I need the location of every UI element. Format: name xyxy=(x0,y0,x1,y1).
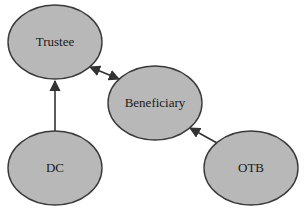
node-label-otb: OTB xyxy=(238,160,264,175)
edge-otb-beneficiary xyxy=(190,128,217,143)
node-label-beneficiary: Beneficiary xyxy=(125,95,186,110)
node-label-dc: DC xyxy=(46,160,64,175)
edge-trustee-beneficiary xyxy=(90,67,119,79)
node-beneficiary: Beneficiary xyxy=(108,66,202,140)
node-trustee: Trustee xyxy=(8,5,102,79)
node-label-trustee: Trustee xyxy=(36,34,75,49)
diagram-canvas: Trustee Beneficiary DC OTB xyxy=(0,0,307,212)
node-dc: DC xyxy=(8,131,102,205)
node-otb: OTB xyxy=(204,131,298,205)
